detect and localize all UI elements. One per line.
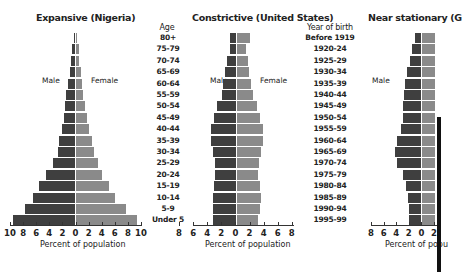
bar-female bbox=[237, 124, 263, 134]
bar-male bbox=[215, 158, 236, 168]
bar-male bbox=[211, 124, 236, 134]
male-label-near-stationary: Male bbox=[372, 76, 390, 85]
bar-female bbox=[76, 181, 109, 191]
bar-male bbox=[397, 158, 421, 168]
bar-male bbox=[215, 170, 236, 180]
bar-male bbox=[409, 204, 421, 214]
bar-female bbox=[422, 90, 435, 100]
row-label: 1965-69 bbox=[300, 147, 360, 156]
axis-tick-label: 6 bbox=[275, 228, 281, 238]
bar-female bbox=[422, 181, 435, 191]
bar-male bbox=[213, 215, 236, 225]
bar-male bbox=[66, 90, 75, 100]
axis-tick-label: 4 bbox=[204, 228, 210, 238]
axis-tick-label: 6 bbox=[112, 228, 118, 238]
axis-tick bbox=[207, 222, 208, 226]
axis-tick bbox=[278, 222, 279, 226]
axis-tick bbox=[49, 222, 50, 226]
row-label: 80+ bbox=[148, 33, 188, 42]
axis-tick bbox=[193, 222, 194, 226]
bar-female bbox=[237, 44, 246, 54]
row-label: 1920-24 bbox=[300, 44, 360, 53]
axis-tick-label: 10 bbox=[135, 228, 147, 238]
bar-male bbox=[403, 113, 421, 123]
row-label: 30-34 bbox=[148, 147, 188, 156]
bar-male bbox=[214, 181, 236, 191]
row-label: 45-49 bbox=[148, 113, 188, 122]
bar-female bbox=[422, 33, 435, 43]
row-label: 65-69 bbox=[148, 67, 188, 76]
bar-female bbox=[76, 124, 89, 134]
bar-male bbox=[213, 147, 236, 157]
bar-female bbox=[422, 124, 435, 134]
row-label: 75-79 bbox=[148, 44, 188, 53]
bar-female bbox=[422, 101, 435, 111]
row-label: 70-74 bbox=[148, 56, 188, 65]
bar-female bbox=[76, 193, 115, 203]
bar-male bbox=[403, 170, 421, 180]
bar-female bbox=[76, 33, 77, 43]
axis-tick bbox=[264, 222, 265, 226]
bar-female bbox=[237, 181, 260, 191]
bar-female bbox=[422, 44, 435, 54]
axis-tick bbox=[292, 222, 293, 226]
row-label: 1980-84 bbox=[300, 181, 360, 190]
bar-female bbox=[422, 67, 435, 77]
row-label: 50-54 bbox=[148, 101, 188, 110]
bar-male bbox=[74, 33, 75, 43]
bar-male bbox=[213, 193, 236, 203]
bar-male bbox=[72, 44, 75, 54]
axis-tick-label: 0 bbox=[73, 228, 79, 238]
bar-male bbox=[225, 67, 236, 77]
row-label: 1960-64 bbox=[300, 136, 360, 145]
axis-tick-label: 8 bbox=[125, 228, 131, 238]
row-label: 10-14 bbox=[148, 193, 188, 202]
row-label: 1990-94 bbox=[300, 204, 360, 213]
bar-male bbox=[39, 181, 75, 191]
bar-male bbox=[401, 124, 421, 134]
bar-male bbox=[46, 170, 75, 180]
axis-tick bbox=[409, 222, 410, 226]
axis-tick bbox=[421, 222, 422, 226]
bar-female bbox=[76, 147, 94, 157]
age-header: Age bbox=[152, 23, 182, 32]
bar-female bbox=[237, 90, 253, 100]
bar-male bbox=[213, 204, 236, 214]
bar-male bbox=[408, 193, 421, 203]
bar-male bbox=[230, 44, 236, 54]
axis-tick bbox=[10, 222, 11, 226]
axis-tick bbox=[250, 222, 251, 226]
bar-male bbox=[33, 193, 75, 203]
bar-male bbox=[412, 44, 421, 54]
row-label: 35-39 bbox=[148, 136, 188, 145]
row-label: 1995-99 bbox=[300, 215, 360, 224]
bar-male bbox=[71, 56, 75, 66]
bar-female bbox=[422, 136, 435, 146]
bar-female bbox=[76, 67, 81, 77]
bar-female bbox=[76, 170, 102, 180]
row-label: 1930-34 bbox=[300, 67, 360, 76]
axis-tick bbox=[371, 222, 372, 226]
bar-male bbox=[227, 56, 236, 66]
bar-male bbox=[58, 147, 75, 157]
axis-tick-label: 2 bbox=[218, 228, 224, 238]
bar-male bbox=[407, 67, 421, 77]
row-label: 1955-59 bbox=[300, 124, 360, 133]
year-header: Year of birth bbox=[300, 23, 360, 32]
bar-male bbox=[223, 79, 236, 89]
x-axis-label-us: Percent of population bbox=[205, 240, 290, 249]
bar-female bbox=[76, 136, 92, 146]
axis-tick-label: 8 bbox=[368, 228, 374, 238]
bar-female bbox=[422, 56, 435, 66]
axis-tick bbox=[221, 222, 222, 226]
row-label: 1925-29 bbox=[300, 56, 360, 65]
bar-male bbox=[395, 147, 421, 157]
bar-male bbox=[410, 56, 421, 66]
bar-male bbox=[214, 113, 236, 123]
axis-tick-label: 4 bbox=[99, 228, 105, 238]
bar-male bbox=[403, 101, 421, 111]
axis-tick-label: 2 bbox=[59, 228, 65, 238]
axis-tick bbox=[141, 222, 142, 226]
bar-female bbox=[237, 170, 258, 180]
axis-tick-label: 0 bbox=[232, 228, 238, 238]
